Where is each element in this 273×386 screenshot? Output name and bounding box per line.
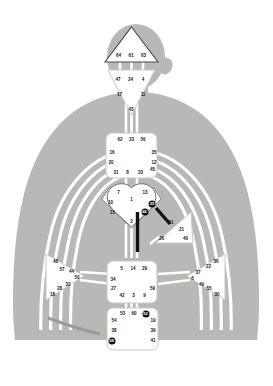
gate-49[interactable]: 49 xyxy=(199,282,204,287)
gate-10[interactable]: 10 xyxy=(108,200,113,205)
gate-52[interactable]: 52 xyxy=(142,310,149,317)
gate-45[interactable]: 45 xyxy=(150,167,155,172)
gate-33[interactable]: 33 xyxy=(138,170,143,175)
gate-28[interactable]: 28 xyxy=(57,286,62,291)
gate-25[interactable]: 25 xyxy=(149,200,156,207)
gate-35[interactable]: 35 xyxy=(152,150,157,155)
gate-64[interactable]: 64 xyxy=(116,53,121,58)
gate-46[interactable]: 46 xyxy=(141,209,148,216)
gate-12[interactable]: 12 xyxy=(152,161,157,166)
gate-20[interactable]: 20 xyxy=(109,161,114,166)
gate-21[interactable]: 21 xyxy=(179,227,184,232)
gate-8[interactable]: 8 xyxy=(126,170,128,175)
gate-60[interactable]: 60 xyxy=(132,312,137,317)
gate-16[interactable]: 16 xyxy=(110,150,115,155)
gate-9[interactable]: 9 xyxy=(143,294,145,299)
gate-57[interactable]: 57 xyxy=(60,267,65,272)
gate-41[interactable]: 41 xyxy=(151,339,156,344)
gate-48[interactable]: 48 xyxy=(53,259,58,264)
gate-40[interactable]: 40 xyxy=(183,236,188,241)
gate-29[interactable]: 29 xyxy=(142,266,147,271)
gate-54[interactable]: 54 xyxy=(112,318,117,323)
gate-56[interactable]: 56 xyxy=(141,138,146,143)
gate-44[interactable]: 44 xyxy=(69,270,74,275)
gate-2[interactable]: 2 xyxy=(130,220,132,225)
gate-22[interactable]: 22 xyxy=(206,265,211,270)
gate-11[interactable]: 11 xyxy=(141,93,146,98)
gate-5[interactable]: 5 xyxy=(120,266,122,271)
gate-62[interactable]: 62 xyxy=(118,138,123,143)
gate-30[interactable]: 30 xyxy=(215,292,220,297)
gate-7[interactable]: 7 xyxy=(117,191,119,196)
gate-1[interactable]: 1 xyxy=(130,198,132,203)
gate-13[interactable]: 13 xyxy=(143,191,148,196)
bodygraph-diagram: 6461634724417114362235616352012318334571… xyxy=(0,0,273,386)
gate-38[interactable]: 38 xyxy=(112,328,117,333)
gate-19[interactable]: 19 xyxy=(151,318,156,323)
gate-53[interactable]: 53 xyxy=(120,312,125,317)
gate-36[interactable]: 36 xyxy=(214,259,219,264)
gate-50[interactable]: 50 xyxy=(75,276,80,281)
gate-number-layer: 6461634724417114362235616352012318334571… xyxy=(0,0,273,386)
gate-37[interactable]: 37 xyxy=(196,270,201,275)
gate-6[interactable]: 6 xyxy=(191,277,193,282)
gate-14[interactable]: 14 xyxy=(131,266,136,271)
gate-15[interactable]: 15 xyxy=(110,210,115,215)
gate-26[interactable]: 26 xyxy=(159,236,164,241)
gate-42[interactable]: 42 xyxy=(120,294,125,299)
gate-17[interactable]: 17 xyxy=(117,93,122,98)
gate-43[interactable]: 43 xyxy=(129,108,134,113)
gate-47[interactable]: 47 xyxy=(116,77,121,82)
gate-55[interactable]: 55 xyxy=(207,286,212,291)
gate-24[interactable]: 24 xyxy=(128,77,133,82)
gate-34[interactable]: 34 xyxy=(111,277,116,282)
gate-59[interactable]: 59 xyxy=(150,286,155,291)
gate-32[interactable]: 32 xyxy=(66,282,71,287)
gate-39[interactable]: 39 xyxy=(151,328,156,333)
gate-4[interactable]: 4 xyxy=(142,77,144,82)
gate-58[interactable]: 58 xyxy=(108,338,115,345)
gate-51[interactable]: 51 xyxy=(169,221,174,226)
gate-31[interactable]: 31 xyxy=(114,170,119,175)
gate-27[interactable]: 27 xyxy=(111,286,116,291)
gate-61[interactable]: 61 xyxy=(129,53,134,58)
gate-18[interactable]: 18 xyxy=(50,292,55,297)
gate-63[interactable]: 63 xyxy=(141,53,146,58)
gate-3[interactable]: 3 xyxy=(132,294,134,299)
gate-23[interactable]: 23 xyxy=(129,138,134,143)
